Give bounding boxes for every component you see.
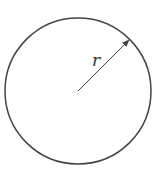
circle-diagram: r [0, 0, 166, 172]
radius-label: r [92, 50, 101, 70]
radius-arrow [78, 40, 129, 91]
